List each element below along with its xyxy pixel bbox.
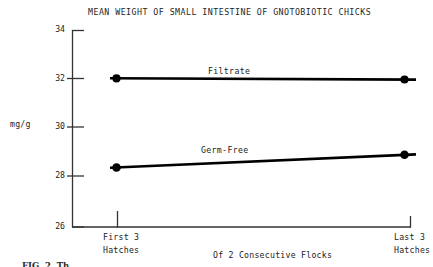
series-label-germ-free: Germ-Free <box>201 146 249 155</box>
figure-caption-fragment: FIG. 2. Th <box>22 261 142 267</box>
x-tick-label-last-line1: Last 3 <box>394 233 425 242</box>
y-tick-label: 32 <box>43 74 65 83</box>
y-tick-label: 34 <box>43 25 65 34</box>
x-tick-label-first-line2: Hatches <box>103 246 139 255</box>
series-line-germ-free <box>110 151 416 172</box>
figure-container: MEAN WEIGHT OF SMALL INTESTINE OF GNOTOB… <box>0 0 433 267</box>
x-axis-title: Of 2 Consecutive Flocks <box>213 251 332 260</box>
x-tick-label-first-line1: First 3 <box>103 233 139 242</box>
y-tick-label: 26 <box>43 222 65 231</box>
y-axis-title: mg/g <box>10 120 31 129</box>
y-axis <box>72 30 84 228</box>
y-axis-ticks <box>67 79 84 177</box>
y-tick-label: 28 <box>43 171 65 180</box>
series-line-filtrate <box>110 74 416 83</box>
y-tick-label: 30 <box>43 122 65 131</box>
chart-title: MEAN WEIGHT OF SMALL INTESTINE OF GNOTOB… <box>88 8 371 17</box>
x-tick-label-last-line2: Hatches <box>394 246 430 255</box>
series-label-filtrate: Filtrate <box>208 67 250 76</box>
x-axis <box>72 216 411 228</box>
